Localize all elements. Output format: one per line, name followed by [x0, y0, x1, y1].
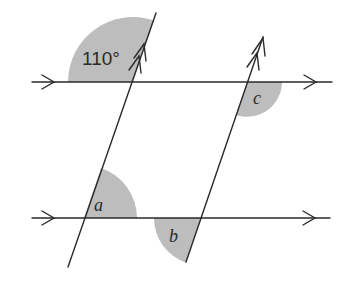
angle-c-label: c — [253, 88, 261, 108]
right-transversal — [186, 37, 263, 262]
angle-a-label: a — [94, 195, 103, 215]
right-transversal-arrow-1-icon — [252, 38, 265, 56]
angle-a-sector — [84, 168, 137, 218]
angle-b-label: b — [169, 226, 178, 246]
angle-110-label: 110° — [82, 48, 120, 69]
angle-diagram: 110° a b c — [0, 0, 354, 298]
